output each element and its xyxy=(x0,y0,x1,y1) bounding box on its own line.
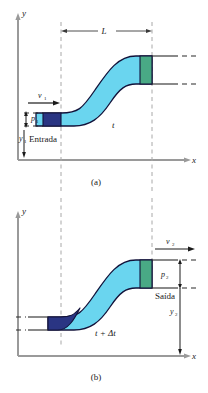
panel-a-inlet-velocity-arrow: v 1 xyxy=(28,91,60,106)
panel-b-y-axis-arrowhead xyxy=(15,211,20,218)
panel-a-inlet-height-dimension xyxy=(22,130,26,158)
panel-b-outlet-velocity-arrow: v 2 xyxy=(155,237,195,252)
panel-b-outlet-slug xyxy=(140,260,152,288)
panel-a-inlet-pressure-label: p xyxy=(30,114,35,123)
panel-b-x-axis-label: x xyxy=(191,351,196,361)
panel-b-outlet-height-dimension xyxy=(178,288,182,355)
panel-a-time-label: t xyxy=(112,120,115,130)
panel-a-y-axis-label: y xyxy=(21,8,26,18)
panel-b-time-label: t + Δt xyxy=(95,328,116,338)
panel-a-inlet-height-label: y xyxy=(18,134,23,143)
panel-b-outlet-height-label: y xyxy=(169,307,174,316)
flow-tube-figure: y x L v 1 xyxy=(0,0,208,393)
figure-root: y x L v 1 xyxy=(0,0,208,393)
panel-b-outlet-velocity-subscript: 2 xyxy=(172,242,175,247)
panel-b-outlet-pressure-marker xyxy=(178,259,182,289)
panel-a-length-dimension: L xyxy=(61,24,152,37)
panel-b: y x v 2 p xyxy=(15,198,196,382)
panel-a-inlet-velocity-subscript: 1 xyxy=(44,96,47,101)
panel-b-outlet-height-subscript: 2 xyxy=(175,312,178,317)
panel-a: y x L v 1 xyxy=(15,8,196,192)
panel-a-y-axis-arrowhead xyxy=(15,13,20,20)
panel-a-x-axis-label: x xyxy=(191,155,196,165)
panel-a-inlet-velocity-label: v xyxy=(38,91,42,100)
panel-b-x-axis-arrowhead xyxy=(184,353,191,358)
panel-b-y-axis-label: y xyxy=(21,206,26,216)
panel-a-inlet-height-subscript: 1 xyxy=(24,139,27,144)
panel-b-outlet-pressure-subscript: 2 xyxy=(166,275,169,280)
panel-b-outlet-pressure-label: p xyxy=(160,270,165,279)
panel-a-inlet-name-label: Entrada xyxy=(29,134,57,144)
panel-b-caption: (b) xyxy=(91,372,102,382)
panel-a-length-label: L xyxy=(100,26,106,36)
panel-b-outlet-name-label: Saída xyxy=(155,291,175,301)
panel-a-inlet-slug xyxy=(43,113,61,126)
panel-a-caption: (a) xyxy=(91,177,101,187)
panel-a-outlet-slug xyxy=(140,56,152,84)
panel-b-outlet-velocity-label: v xyxy=(166,237,170,246)
panel-a-x-axis-arrowhead xyxy=(184,157,191,162)
